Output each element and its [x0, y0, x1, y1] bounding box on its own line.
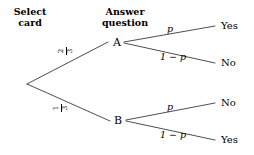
leaf-a-yes: Yes [221, 20, 238, 31]
fraction-denominator: 3 [62, 102, 70, 114]
branch-label-a-upper: p [167, 23, 173, 34]
leaf-a-no: No [221, 57, 236, 68]
branch-label-root-to-b: 1 3 [53, 102, 69, 114]
fraction-numerator: 2 [58, 45, 66, 57]
stage-header-answer-question: Answer question [92, 6, 158, 28]
node-b: B [110, 114, 126, 127]
branch-label-root-to-a: 2 3 [58, 45, 74, 57]
node-a: A [109, 36, 125, 49]
probability-tree-diagram: Select card Answer question 2 3 1 3 A B … [0, 0, 254, 155]
leaf-b-no: No [221, 97, 236, 108]
branch-label-b-upper: p [167, 101, 173, 112]
leaf-b-yes: Yes [221, 134, 238, 145]
fraction-denominator: 3 [67, 45, 75, 57]
branch-label-b-lower: 1 − p [160, 129, 186, 140]
fraction-numerator: 1 [53, 102, 61, 114]
stage-header-select-card: Select card [2, 6, 58, 28]
branch-label-a-lower: 1 − p [160, 51, 186, 62]
